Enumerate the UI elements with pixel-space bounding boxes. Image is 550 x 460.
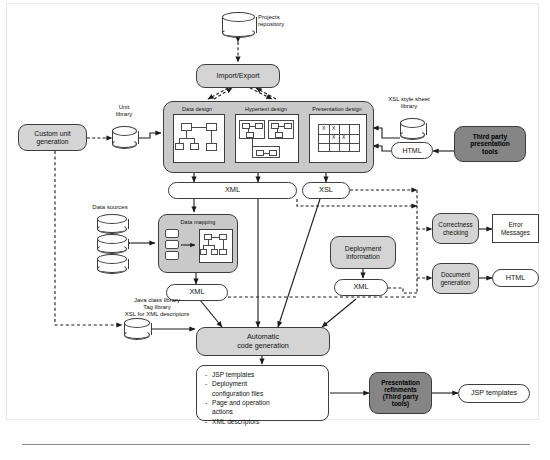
hypertext-page-box [252,146,280,158]
deployment-information-node[interactable]: Deployment information [330,236,396,269]
document-generation-node[interactable]: Document generation [432,263,479,294]
html-document-node[interactable]: HTML [492,269,539,287]
third-party-tools-line1: Third party [473,133,507,140]
document-generation-line1: Document [441,271,470,278]
java-class-library-cylinder [124,318,150,340]
hypertext-unit [256,150,264,156]
third-party-tools-line3: tools [482,148,498,155]
unit-library-label: Unit library [99,104,149,118]
xsl-design-node[interactable]: XSL [302,182,350,199]
error-messages-line2: Messages [501,229,530,236]
hypertext-unit [284,123,292,129]
data-mapping-source-item [165,229,179,238]
presentation-design-canvas[interactable]: X X X X [309,114,367,163]
presentation-refinements-line4: tools) [392,400,409,407]
hypertext-link [250,126,255,127]
presentation-refinements-node[interactable]: Presentation refinments (Third party too… [369,372,432,414]
presentation-refinements-line3: (Third party [383,393,419,400]
deployment-information-line1: Deployment [345,245,381,253]
presentation-grid-mark: X [332,126,335,131]
list-item: Deployment [205,379,328,388]
correctness-checking-node[interactable]: Correctness checking [432,213,479,244]
data-hierarchy-line [179,138,195,139]
custom-unit-generation-line2: generation [36,138,68,146]
hypertext-design-title: Hypertext design [230,106,302,112]
data-entity-box [206,123,217,131]
presentation-grid-mark: X [332,135,335,140]
data-mapping-bidir-arrow [181,239,197,251]
error-messages-line1: Error [508,221,522,228]
xsl-library-line2: library [373,103,445,110]
hypertext-page-box [268,120,294,139]
data-mapping-title: Data mapping [159,219,237,225]
import-export-label: Import/Export [216,72,259,80]
presentation-refinements-line2: refinments [384,386,417,393]
hypertext-unit [275,132,283,138]
unit-library-line1: Unit [99,104,149,111]
html-top-label: HTML [402,147,421,155]
document-generation-line2: generation [440,279,470,286]
projects-repository-line1: Projects [258,14,312,21]
list-item-cont: configuration files [205,389,328,398]
data-mapping-source-item [165,240,179,249]
diagram-canvas: Projects repository Import/Export Custom… [0,0,550,460]
data-hierarchy-line [186,131,187,138]
jsp-templates-output-node[interactable]: JSP templates [458,384,530,403]
bottom-rule [22,444,530,445]
custom-unit-generation-node[interactable]: Custom unit generation [18,124,87,151]
hypertext-design-canvas[interactable] [235,114,299,163]
java-class-library-line2: Tag library [98,304,216,311]
design-editor-panel: Data design Hypertext design [163,101,374,173]
list-item: JSP templates [205,370,328,379]
projects-repository-line2: repository [258,21,312,28]
correctness-checking-line2: checking [443,229,468,236]
projects-repository-cylinder [222,12,255,38]
xml-design-label: XML [225,186,240,194]
presentation-grid-mark: X [322,126,325,131]
presentation-grid-mark: X [342,135,345,140]
xml-deployment-label: XML [353,283,368,291]
list-item-cont: actions [205,407,328,416]
presentation-grid: X X X X [318,124,360,152]
data-relationship-line [192,127,206,128]
error-messages-node[interactable]: Error Messages [492,214,539,243]
hypertext-unit [269,150,277,156]
list-item: XML descriptors [205,417,328,426]
third-party-tools-line2: presentation [470,140,510,147]
import-export-node[interactable]: Import/Export [196,64,280,88]
automatic-code-generation-node[interactable]: Automatic code generation [196,327,330,356]
java-class-library-line3: XSL for XML descriptors [98,311,216,318]
presentation-design-title: Presentation design [301,106,373,112]
hypertext-unit [246,132,254,138]
data-design-canvas[interactable] [173,114,225,163]
third-party-presentation-tools-node[interactable]: Third party presentation tools [454,126,526,162]
html-document-label: HTML [506,274,526,282]
xml-design-node[interactable]: XML [168,182,297,199]
correctness-checking-line1: Correctness [438,221,472,228]
data-entity-box [200,249,207,255]
html-top-node[interactable]: HTML [391,142,433,159]
java-class-library-line1: Java class library [98,297,216,304]
java-class-library-label: Java class library Tag library XSL for X… [98,297,216,318]
data-entity-box [219,249,227,255]
data-sources-label: Data sources [76,204,144,211]
automatic-code-generation-line2: code generation [237,342,289,350]
presentation-refinements-line1: Presentation [381,379,420,386]
list-item: Page and operation [205,398,328,407]
data-relationship-line [212,237,219,238]
hypertext-link [277,129,278,132]
data-entity-box [190,143,199,150]
projects-repository-label: Projects repository [258,14,312,28]
data-mapping-panel[interactable]: Data mapping [158,214,238,273]
xml-deployment-node[interactable]: XML [334,279,388,296]
xsl-library-line1: XSL style sheet [373,96,445,103]
xml-mapping-label: XML [189,288,204,296]
data-entity-box [181,123,192,131]
xsl-style-sheet-library-cylinder [400,118,425,140]
hypertext-link [279,126,284,127]
unit-library-cylinder [112,126,137,149]
data-sources-text: Data sources [92,204,127,210]
custom-unit-generation-line1: Custom unit [34,130,70,138]
data-mapping-target-diagram [199,229,233,263]
hypertext-link [248,129,249,132]
